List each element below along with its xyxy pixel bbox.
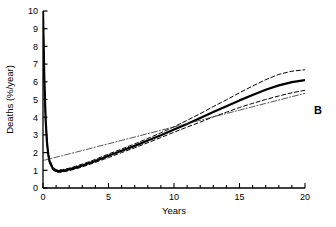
- y-tick-label: 2: [33, 148, 38, 158]
- y-tick-label: 6: [33, 77, 38, 87]
- y-tick-label: 5: [33, 95, 38, 105]
- y-tick-label: 10: [28, 6, 38, 16]
- x-tick-label: 15: [234, 192, 244, 202]
- y-tick-label: 0: [33, 183, 38, 193]
- y-tick-label: 7: [33, 59, 38, 69]
- series-line: [43, 93, 305, 160]
- x-tick-label: 0: [40, 192, 45, 202]
- axis-labels: 01234567891005101520YearsDeaths (%/year): [4, 6, 310, 216]
- series-line: [43, 11, 305, 172]
- x-tick-label: 5: [106, 192, 111, 202]
- figure-panel-b: 01234567891005101520YearsDeaths (%/year)…: [0, 0, 336, 227]
- y-tick-label: 4: [33, 113, 38, 123]
- data-series: [43, 11, 305, 172]
- x-tick-label: 20: [300, 192, 310, 202]
- y-tick-label: 3: [33, 130, 38, 140]
- x-axis-title: Years: [162, 205, 186, 216]
- y-axis-title: Deaths (%/year): [4, 65, 15, 134]
- panel-label: B: [314, 104, 322, 116]
- y-tick-label: 1: [33, 166, 38, 176]
- x-tick-label: 10: [169, 192, 179, 202]
- y-tick-label: 9: [33, 24, 38, 34]
- y-tick-label: 8: [33, 42, 38, 52]
- series-line: [43, 11, 305, 171]
- chart-canvas: 01234567891005101520YearsDeaths (%/year)…: [0, 0, 336, 227]
